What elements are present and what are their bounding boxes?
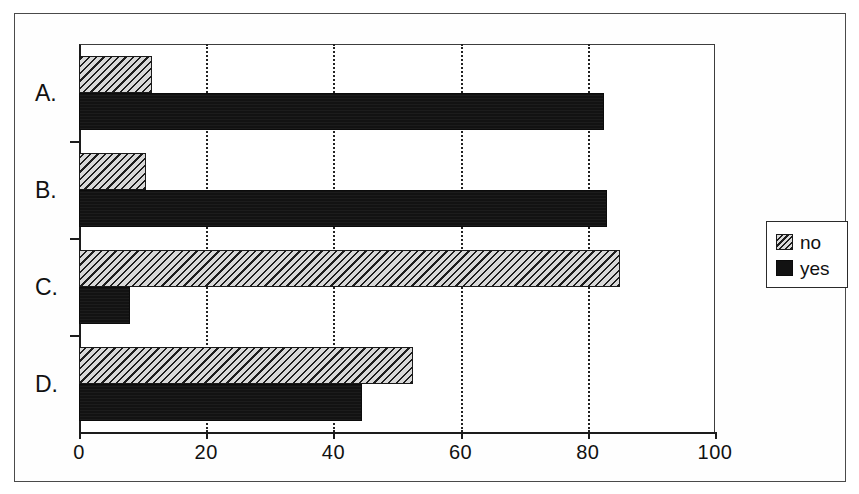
x-tick-0 <box>79 432 81 439</box>
category-label-a: A. <box>35 79 57 106</box>
legend-item-no: no <box>776 229 847 255</box>
y-tick-1 <box>70 141 79 143</box>
x-tick-40 <box>333 432 335 439</box>
bar-yes-a <box>79 93 604 130</box>
figure-frame: 020406080100 A.B.C.D. no yes <box>14 13 846 482</box>
category-label-b: B. <box>35 176 57 203</box>
legend-swatch-yes-icon <box>776 260 793 276</box>
x-tick-label-20: 20 <box>195 441 218 464</box>
legend-label-yes: yes <box>800 259 830 278</box>
bar-yes-b <box>79 190 607 227</box>
legend-swatch-no-icon <box>776 234 793 250</box>
bar-no-d <box>79 347 413 384</box>
x-tick-20 <box>206 432 208 439</box>
bar-yes-c <box>79 287 130 324</box>
y-tick-3 <box>70 335 79 337</box>
bar-yes-d <box>79 384 362 421</box>
x-tick-label-80: 80 <box>576 441 599 464</box>
y-tick-2 <box>70 238 79 240</box>
x-tick-label-0: 0 <box>73 441 85 464</box>
legend-label-no: no <box>800 233 821 252</box>
x-tick-label-100: 100 <box>698 441 733 464</box>
x-tick-label-60: 60 <box>449 441 472 464</box>
bar-no-a <box>79 56 152 93</box>
category-label-c: C. <box>35 273 58 300</box>
x-tick-60 <box>461 432 463 439</box>
x-tick-100 <box>715 432 717 439</box>
x-tick-label-40: 40 <box>322 441 345 464</box>
legend-item-yes: yes <box>776 255 847 281</box>
chart-legend: no yes <box>766 221 848 288</box>
bar-no-c <box>79 250 620 287</box>
bar-no-b <box>79 153 146 190</box>
x-axis-line <box>79 432 715 434</box>
x-tick-80 <box>588 432 590 439</box>
category-label-d: D. <box>35 370 58 397</box>
